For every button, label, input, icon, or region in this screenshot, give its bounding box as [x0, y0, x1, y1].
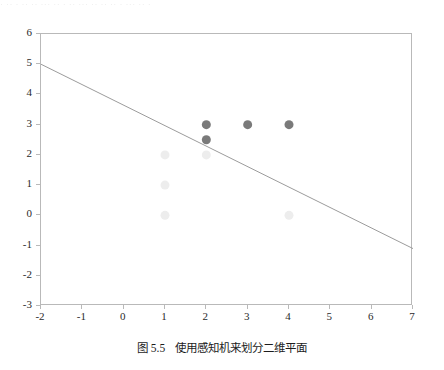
- y-tick: [36, 154, 40, 155]
- x-tick-label: 1: [149, 310, 179, 323]
- y-tick: [36, 305, 40, 306]
- y-tick-label: 6: [0, 26, 32, 39]
- figure-perceptron-plane-partition: -2-101234567 -3-2-10123456 图 5.5使用感知机来划分…: [0, 0, 444, 370]
- y-tick: [36, 184, 40, 185]
- data-point-class-negative: [202, 150, 211, 159]
- data-point-class-negative: [285, 211, 294, 220]
- x-tick: [412, 305, 413, 309]
- data-point-class-positive: [243, 120, 252, 129]
- x-tick: [371, 305, 372, 309]
- data-point-class-positive: [285, 120, 294, 129]
- data-point-class-negative: [161, 181, 170, 190]
- x-tick-label: 2: [190, 310, 220, 323]
- figure-caption-number: 图 5.5: [137, 342, 165, 354]
- x-tick-label: 3: [232, 310, 262, 323]
- y-tick-label: 2: [0, 147, 32, 160]
- x-tick-label: 7: [397, 310, 427, 323]
- x-tick-label: -2: [25, 310, 55, 323]
- x-tick: [205, 305, 206, 309]
- x-tick: [81, 305, 82, 309]
- y-tick-label: 4: [0, 86, 32, 99]
- plot-area: [40, 33, 412, 305]
- x-tick-label: 6: [356, 310, 386, 323]
- decision-boundary: [41, 64, 413, 248]
- data-point-class-positive: [202, 120, 211, 129]
- x-tick: [288, 305, 289, 309]
- y-tick-label: 0: [0, 207, 32, 220]
- y-tick: [36, 275, 40, 276]
- x-tick: [164, 305, 165, 309]
- y-tick: [36, 245, 40, 246]
- x-tick: [247, 305, 248, 309]
- data-point-class-negative: [161, 211, 170, 220]
- y-tick: [36, 124, 40, 125]
- y-tick-label: 5: [0, 56, 32, 69]
- y-tick-label: -1: [0, 238, 32, 251]
- data-point-markers: [161, 120, 294, 220]
- x-tick-label: 0: [108, 310, 138, 323]
- y-tick-label: 3: [0, 117, 32, 130]
- y-tick: [36, 93, 40, 94]
- figure-caption-text: 使用感知机来划分二维平面: [175, 342, 307, 354]
- y-tick-label: 1: [0, 177, 32, 190]
- data-point-class-negative: [161, 150, 170, 159]
- x-tick-label: -1: [66, 310, 96, 323]
- plot-canvas: [41, 34, 413, 306]
- x-tick: [40, 305, 41, 309]
- x-tick-label: 5: [314, 310, 344, 323]
- y-tick-label: -3: [0, 298, 32, 311]
- x-tick: [329, 305, 330, 309]
- x-tick: [123, 305, 124, 309]
- figure-caption: 图 5.5使用感知机来划分二维平面: [0, 340, 444, 356]
- y-tick: [36, 63, 40, 64]
- y-tick-label: -2: [0, 268, 32, 281]
- data-point-class-positive: [202, 135, 211, 144]
- y-tick: [36, 214, 40, 215]
- decision-boundary-line: [41, 64, 413, 248]
- y-tick: [36, 33, 40, 34]
- x-tick-label: 4: [273, 310, 303, 323]
